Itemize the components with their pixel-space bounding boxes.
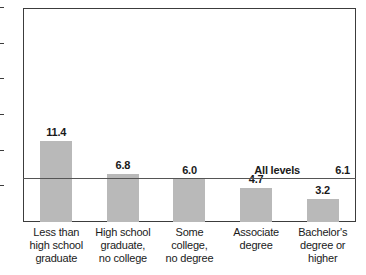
y-tick-mark xyxy=(0,185,4,186)
x-label-line: High school xyxy=(90,226,157,239)
x-axis-labels: Less than high school graduate High scho… xyxy=(23,226,356,275)
x-label-line: no degree xyxy=(156,252,223,265)
y-tick-mark xyxy=(0,114,4,115)
x-label-line: Associate xyxy=(223,226,290,239)
bar-rect xyxy=(40,141,72,222)
bar-value-label: 6.0 xyxy=(182,164,197,176)
bar-value-label: 6.8 xyxy=(116,159,131,171)
x-label-line: graduate, xyxy=(90,239,157,252)
bar-rect xyxy=(307,199,339,222)
bar-chart: 30 25 20 15 10 5 0 11 xyxy=(0,0,366,275)
x-label-line: degree xyxy=(223,239,290,252)
x-label-less-than-high-school: Less than high school graduate xyxy=(23,226,90,265)
all-levels-reference-line xyxy=(23,178,356,179)
x-label-line: higher xyxy=(289,252,356,265)
bar-slot: 11.4 xyxy=(23,8,90,222)
y-tick-mark xyxy=(0,7,4,8)
all-levels-value: 6.1 xyxy=(335,164,350,176)
x-label-bachelors-degree: Bachelor's degree or higher xyxy=(289,226,356,265)
bar-slot: 6.0 xyxy=(156,8,223,222)
y-tick-mark xyxy=(0,78,4,79)
x-label-line: degree or xyxy=(289,239,356,252)
all-levels-label: All levels xyxy=(254,164,300,176)
bar-slot: 4.7 xyxy=(223,8,290,222)
bars-layer: 11.4 6.8 6.0 4.7 3.2 All levels 6.1 xyxy=(23,8,356,222)
y-tick-mark xyxy=(0,150,4,151)
x-label-line: Bachelor's xyxy=(289,226,356,239)
x-label-line: Less than xyxy=(23,226,90,239)
x-label-high-school-graduate: High school graduate, no college xyxy=(90,226,157,265)
bar-value-label: 11.4 xyxy=(46,126,66,138)
x-label-line: Some college, xyxy=(156,226,223,252)
x-label-line: no college xyxy=(90,252,157,265)
x-label-line: graduate xyxy=(23,252,90,265)
bar-value-label: 3.2 xyxy=(315,184,330,196)
x-label-line: high school xyxy=(23,239,90,252)
x-label-associate-degree: Associate degree xyxy=(223,226,290,252)
bar-rect xyxy=(173,179,205,222)
y-tick-mark xyxy=(0,43,4,44)
y-axis: 30 25 20 15 10 5 0 xyxy=(0,0,23,275)
bar-slot: 6.8 xyxy=(90,8,157,222)
bar-slot: 3.2 xyxy=(289,8,356,222)
bar-rect xyxy=(240,188,272,222)
x-label-some-college: Some college, no degree xyxy=(156,226,223,265)
bar-rect xyxy=(107,174,139,223)
